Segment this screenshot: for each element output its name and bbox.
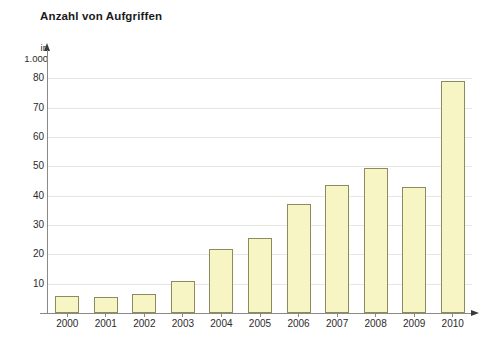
x-axis-tick-label: 2006 <box>279 318 318 330</box>
bar <box>402 187 426 313</box>
x-axis-tick-mark <box>182 313 183 317</box>
x-axis-tick-label: 2007 <box>318 318 357 330</box>
x-axis-tick-label: 2002 <box>125 318 164 330</box>
y-axis-unit-label: in 1.000 <box>0 42 48 64</box>
bar <box>55 296 79 313</box>
bar <box>364 168 388 313</box>
x-axis-tick-label: 2003 <box>164 318 203 330</box>
x-axis-tick-mark <box>144 313 145 317</box>
bar <box>248 238 272 313</box>
x-axis-tick-label: 2000 <box>48 318 87 330</box>
gridline <box>48 166 472 167</box>
x-axis-tick-mark <box>414 313 415 317</box>
x-axis-tick-label: 2001 <box>87 318 126 330</box>
x-axis-tick-mark <box>452 313 453 317</box>
x-axis-tick-label: 2010 <box>433 318 472 330</box>
x-axis-tick-label: 2005 <box>241 318 280 330</box>
bar <box>325 185 349 313</box>
bar <box>94 297 118 313</box>
x-axis-arrow-icon <box>471 310 479 316</box>
chart-title: Anzahl von Aufgriffen <box>40 10 162 22</box>
y-axis-unit-line-1: in <box>0 42 48 53</box>
y-axis-tick-label: 80 <box>4 73 44 83</box>
y-axis-tick-label: 20 <box>4 249 44 259</box>
bar-chart: Anzahl von Aufgriffen in 1.000 102030405… <box>0 0 490 348</box>
bar <box>441 81 465 313</box>
x-axis-tick-label: 2004 <box>202 318 241 330</box>
x-axis-tick-label: 2009 <box>395 318 434 330</box>
gridline <box>48 78 472 79</box>
y-axis-unit-line-2: 1.000 <box>0 53 48 64</box>
x-axis-tick-mark <box>221 313 222 317</box>
y-axis-tick-label: 50 <box>4 161 44 171</box>
y-axis-tick-label: 30 <box>4 220 44 230</box>
y-axis-tick-label: 10 <box>4 279 44 289</box>
bar <box>132 294 156 313</box>
x-axis-tick-mark <box>260 313 261 317</box>
x-axis-tick-label: 2008 <box>356 318 395 330</box>
bar <box>171 281 195 313</box>
plot-area <box>48 48 472 313</box>
y-axis-tick-label: 70 <box>4 103 44 113</box>
y-axis-tick-label: 40 <box>4 191 44 201</box>
x-axis-tick-mark <box>67 313 68 317</box>
x-axis-tick-mark <box>105 313 106 317</box>
bar <box>287 204 311 313</box>
x-axis-tick-mark <box>298 313 299 317</box>
x-axis-tick-mark <box>375 313 376 317</box>
x-axis-tick-mark <box>337 313 338 317</box>
bar <box>209 249 233 313</box>
gridline <box>48 108 472 109</box>
gridline <box>48 137 472 138</box>
y-axis-tick-label: 60 <box>4 132 44 142</box>
